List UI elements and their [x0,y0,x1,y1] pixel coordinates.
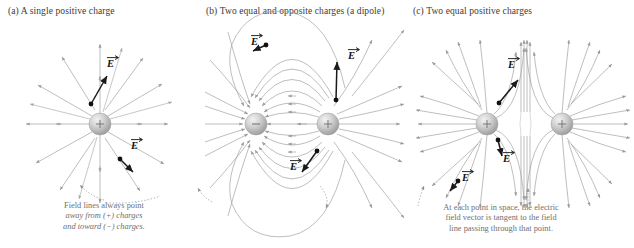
vector-label-E-c1: E [508,56,515,71]
panel-two-positive-charges: (c) Two equal positive charges [405,0,634,248]
vector-label-E-c2: E [503,150,510,165]
field-lines-like-charges [416,40,630,208]
field-vector-arrows [450,80,518,191]
panel-c-field-diagram [0,0,634,248]
charge-positive-right [551,113,573,135]
vector-label-E-c3: E [462,169,469,184]
electric-field-lines-figure: (a) A single positive charge [0,0,634,248]
caption-leader-lines [418,186,528,206]
charge-positive-left [476,113,498,135]
